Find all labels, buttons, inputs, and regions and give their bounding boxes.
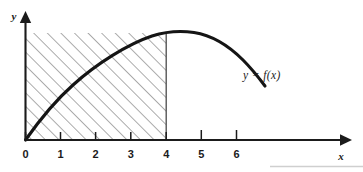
tick-label-0: 0 xyxy=(22,148,28,160)
tick-label-2: 2 xyxy=(93,148,99,160)
x-axis-arrowhead xyxy=(340,134,352,146)
tick-label-6: 6 xyxy=(233,148,239,160)
curve-label: y = f(x) xyxy=(242,69,281,82)
y-axis-label: y xyxy=(10,10,17,22)
x-axis-label: x xyxy=(337,150,344,162)
tick-label-5: 5 xyxy=(198,148,204,160)
tick-label-1: 1 xyxy=(57,148,63,160)
x-axis-tick-labels: 0 1 2 3 4 5 6 xyxy=(22,148,239,160)
hatch-fill xyxy=(26,33,167,140)
shaded-region xyxy=(26,33,167,140)
y-axis-arrowhead xyxy=(20,11,31,23)
tick-label-4: 4 xyxy=(163,148,170,160)
math-figure: 0 1 2 3 4 5 6 x y y = f(x) xyxy=(0,0,363,172)
tick-label-3: 3 xyxy=(128,148,134,160)
figure-canvas: 0 1 2 3 4 5 6 x y y = f(x) xyxy=(0,0,363,172)
